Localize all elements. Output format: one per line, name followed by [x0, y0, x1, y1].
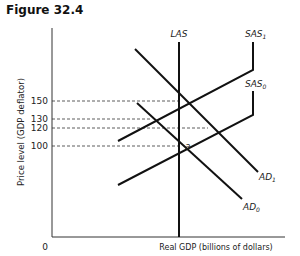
dashed-guides — [52, 101, 208, 146]
ad0-label: AD0 — [242, 202, 260, 213]
y-tick-150: 150 — [31, 96, 48, 106]
sas1-label: SAS1 — [245, 29, 266, 40]
las-label: LAS — [171, 29, 188, 39]
origin-label: 0 — [42, 242, 48, 252]
y-tick-100: 100 — [31, 141, 48, 151]
ad1-label: AD1 — [258, 172, 276, 183]
ad0-curve — [137, 103, 242, 199]
ad1-curve — [135, 49, 258, 172]
x-axis-label: Real GDP (billions of dollars) — [159, 243, 272, 252]
ad-as-chart: 150 130 120 100 0 Price level (GDP defla… — [0, 0, 300, 256]
y-tick-120: 120 — [31, 123, 48, 133]
point-a-label: a — [185, 141, 191, 151]
y-axis-label: Price level (GDP deflator) — [17, 78, 26, 186]
sas0-label: SAS0 — [245, 79, 267, 90]
